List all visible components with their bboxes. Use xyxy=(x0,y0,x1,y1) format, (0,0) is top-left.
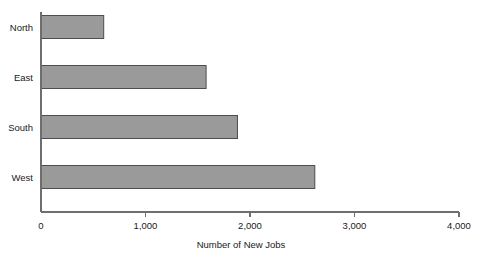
x-axis-title: Number of New Jobs xyxy=(197,239,286,250)
x-tick-label-4000: 4,000 xyxy=(447,220,471,231)
x-tick-label-3000: 3,000 xyxy=(343,220,367,231)
bar-chart: 01,0002,0003,0004,000 NorthEastSouthWest… xyxy=(0,0,481,260)
bar-south xyxy=(41,116,237,139)
x-tick-label-2000: 2,000 xyxy=(238,220,262,231)
category-label-east: East xyxy=(14,72,33,83)
x-tick-label-1000: 1,000 xyxy=(134,220,158,231)
bar-east xyxy=(41,66,206,89)
x-tick-label-0: 0 xyxy=(38,220,43,231)
bar-west xyxy=(41,166,315,189)
category-label-south: South xyxy=(8,122,33,133)
chart-canvas: 01,0002,0003,0004,000 NorthEastSouthWest… xyxy=(0,0,481,260)
category-label-west: West xyxy=(12,172,34,183)
category-label-north: North xyxy=(10,22,33,33)
bar-north xyxy=(41,16,104,39)
